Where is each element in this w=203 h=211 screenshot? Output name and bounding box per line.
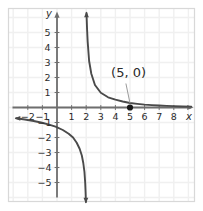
y-tick-label: −4 [37,162,51,173]
x-tick-label: 5 [127,111,133,122]
y-tick-label: 4 [44,42,50,53]
y-tick-label: 1 [44,87,50,98]
y-tick-label: 5 [44,27,50,38]
x-tick-label: 8 [171,111,177,122]
coordinate-graph-figure: −2−11234567854321−1−2−3−4−5yx(5, 0) [0,0,203,211]
x-tick-label: 3 [98,111,104,122]
x-tick-label: 1 [69,111,75,122]
y-tick-label: −1 [37,117,51,128]
y-axis-label: y [45,8,53,19]
x-tick-label: 4 [112,111,118,122]
y-tick-label: −5 [37,177,51,188]
x-tick-label: 7 [156,111,162,122]
y-tick-label: 2 [44,72,50,83]
y-tick-label: 3 [44,57,50,68]
y-tick-label: −2 [37,132,51,143]
x-tick-label: 6 [142,111,148,122]
y-tick-label: −3 [37,147,51,158]
x-tick-label: −2 [21,111,35,122]
annotation-text: (5, 0) [111,65,146,80]
x-axis-label: x [185,111,192,122]
marked-point [127,104,133,110]
x-tick-label: 2 [83,111,89,122]
